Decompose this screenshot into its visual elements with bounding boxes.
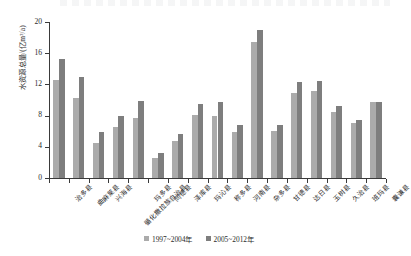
x-axis-category-label: 班玛县 [369,181,391,203]
bar [317,81,323,178]
bar [277,125,283,178]
bar [356,120,362,179]
y-axis-tick: 12 [15,84,49,85]
bar [138,101,144,178]
y-axis-tick-mark [45,116,49,117]
x-axis-category-label: 玉树县 [330,181,352,203]
bar [336,106,342,178]
x-axis-category-labels: 治多县曲麻莱县兴海县循化撒拉族自治县玛多县同德县泽库县玛沁县称多县河南县杂多县甘… [49,181,389,225]
legend-item[interactable]: 1997~2004年 [144,233,193,244]
bar [99,132,105,178]
y-axis-tick: 20 [15,22,49,23]
bar [257,30,263,178]
bar [59,59,65,178]
y-axis-tick-label: 4 [38,141,42,150]
y-axis-tick: 8 [15,116,49,117]
y-axis-tick: 0 [15,178,49,179]
y-axis-tick-label: 20 [34,17,42,26]
bar [297,82,303,178]
bar [218,102,224,178]
y-axis-tick-label: 16 [34,48,42,57]
y-axis-title: 水资源总量/(亿m³/a) [16,0,27,133]
x-axis-category-label: 治多县 [72,181,94,203]
plot-area: 048121620 [49,22,386,179]
x-axis-category-label: 玛沁县 [211,181,233,203]
bar [198,104,204,178]
x-axis-category-label: 杂多县 [270,181,292,203]
bar [79,77,85,178]
x-axis-category-label: 泽库县 [191,181,213,203]
x-axis-category-label: 甘德县 [290,181,312,203]
x-axis-category-label: 久治县 [350,181,372,203]
y-axis-tick-mark [45,22,49,23]
bar [237,125,243,178]
scan-artifact-strip [60,0,390,6]
x-axis-category-label: 囊谦县 [389,181,411,203]
y-axis-tick-mark [45,53,49,54]
x-axis-category-label: 达日县 [310,181,332,203]
x-axis-category-label: 河南县 [250,181,272,203]
legend-color-swatch [144,236,149,241]
legend-label: 1997~2004年 [152,233,193,244]
y-axis-line [49,22,50,179]
y-axis-tick: 4 [15,147,49,148]
chart-legend: 1997~2004年2005~2012年 [0,233,398,244]
bar [376,102,382,178]
legend-color-swatch [206,236,211,241]
legend-label: 2005~2012年 [214,233,255,244]
legend-item[interactable]: 2005~2012年 [206,233,255,244]
y-axis-tick-label: 0 [38,173,42,182]
y-axis-tick-label: 8 [38,110,42,119]
y-axis-tick-label: 12 [34,79,42,88]
y-axis-tick: 16 [15,53,49,54]
bar [178,134,184,178]
x-axis-line [49,178,386,179]
bar [118,116,124,178]
y-axis-tick-mark [45,147,49,148]
x-axis-category-label: 称多县 [231,181,253,203]
y-axis-tick-mark [45,84,49,85]
bar [158,153,164,178]
x-axis-category-label: 同德县 [171,181,193,203]
